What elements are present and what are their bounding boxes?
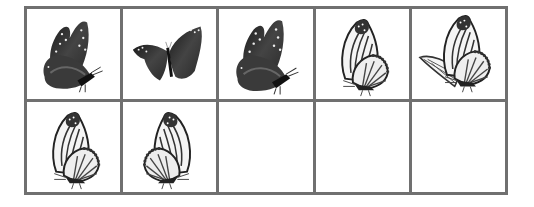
grid-cell-r1c5	[412, 9, 505, 99]
dark-butterfly-icon	[219, 9, 312, 99]
grid-cell-r2c5-empty	[412, 102, 505, 192]
grid-cell-r1c4	[316, 9, 409, 99]
dark-butterfly-open-icon	[123, 9, 216, 99]
grid-cell-r1c3	[219, 9, 312, 99]
grid-cell-r1c2	[123, 9, 216, 99]
dark-butterfly-icon	[27, 9, 120, 99]
monarch-butterfly-mirrored-icon	[123, 102, 216, 192]
grid-cell-r2c1	[27, 102, 120, 192]
grid-cell-r2c2	[123, 102, 216, 192]
monarch-butterfly-icon	[316, 9, 409, 99]
butterfly-grid	[24, 6, 508, 195]
monarch-butterfly-flying-icon	[412, 9, 505, 99]
grid-cell-r1c1	[27, 9, 120, 99]
grid-cell-r2c3-empty	[219, 102, 312, 192]
grid-cell-r2c4-empty	[316, 102, 409, 192]
monarch-butterfly-icon	[27, 102, 120, 192]
